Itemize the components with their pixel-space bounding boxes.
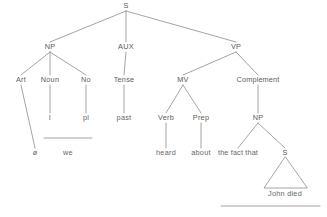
edge-s-np — [50, 11, 126, 42]
terminal-john-died: John died — [268, 190, 302, 197]
terminal-heard: heard — [156, 149, 176, 156]
node-noun-i: I — [49, 114, 51, 121]
node-tense: Tense — [114, 76, 135, 83]
node-tense-past: past — [117, 114, 132, 121]
embedded-s-triangle — [264, 157, 307, 188]
node-mv: MV — [177, 76, 188, 83]
node-complement: Complement — [237, 76, 280, 83]
node-root-s: S — [123, 2, 128, 9]
terminal-art-null: ø — [33, 149, 38, 156]
node-aux: AUX — [118, 43, 134, 50]
terminal-we: we — [63, 149, 73, 156]
terminal-the-fact-that: the fact that — [218, 149, 258, 156]
edge-np-embedded-s — [258, 123, 285, 148]
edge-np-no — [50, 52, 86, 75]
node-complement-np: NP — [253, 114, 264, 121]
node-verb: Verb — [158, 114, 174, 121]
node-no: No — [81, 76, 91, 83]
edge-vp-mv — [183, 52, 236, 75]
edge-np-art — [21, 52, 50, 75]
edge-vp-complement — [236, 52, 258, 75]
node-no-pl: pl — [83, 114, 89, 121]
node-art: Art — [16, 76, 26, 83]
node-noun: Noun — [41, 76, 59, 83]
node-np: NP — [45, 43, 56, 50]
syntax-tree-figure: S NP AUX VP Art Noun No Tense MV Complem… — [0, 0, 327, 217]
node-embedded-s: S — [282, 149, 287, 156]
node-vp: VP — [231, 43, 241, 50]
edge-mv-verb — [166, 85, 183, 113]
tree-edges — [0, 0, 327, 217]
edge-art-null — [21, 85, 35, 148]
terminal-about: about — [191, 149, 211, 156]
edge-aux-tense — [124, 52, 126, 75]
node-prep: Prep — [193, 114, 209, 121]
edge-np-thefactthat — [238, 123, 258, 148]
edge-s-vp — [126, 11, 236, 42]
edge-mv-prep — [183, 85, 201, 113]
